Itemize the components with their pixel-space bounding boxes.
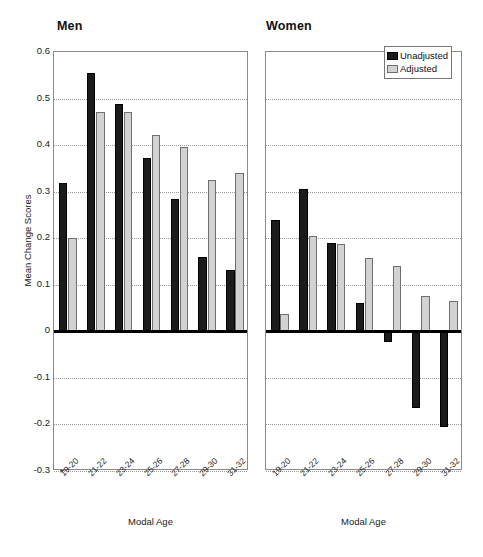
bar-adjusted [96,112,104,332]
bar-group [54,52,82,469]
bar-unadjusted [143,158,151,331]
bar-unadjusted [115,104,123,331]
bar-unadjusted [412,331,420,408]
y-tick-label: -0.2 [16,418,50,428]
bar-unadjusted [87,73,95,331]
bar-unadjusted [226,270,234,331]
bar-adjusted [180,147,188,331]
bar-unadjusted [59,183,67,331]
bar-unadjusted [299,189,307,331]
bar-adjusted [309,236,317,331]
legend-label-adjusted: Adjusted [400,64,437,74]
plot-area-men [54,52,247,469]
bar-unadjusted [198,257,206,331]
plot-area-women [266,52,461,469]
bar-group [322,52,350,469]
legend-label-unadjusted: Unadjusted [400,51,448,61]
bar-adjusted [208,180,216,331]
bar-unadjusted [356,303,364,331]
bar-adjusted [449,301,457,331]
bar-group [82,52,110,469]
y-tick-label: -0.1 [16,372,50,382]
chart-panel-men [53,51,248,470]
bar-adjusted [152,135,160,331]
bar-unadjusted [440,331,448,426]
panel-title-women: Women [266,19,312,33]
y-tick-label: 0.1 [16,279,50,289]
bar-group [435,52,463,469]
bar-group [138,52,166,469]
bar-group [193,52,221,469]
legend-item-adjusted: Adjusted [387,63,448,75]
y-tick-label: -0.3 [16,465,50,475]
y-axis-tick-labels: 0.60.50.40.30.20.10-0.1-0.2-0.3 [12,0,50,557]
bar-adjusted [365,258,373,332]
zero-baseline [54,330,247,333]
bar-group [350,52,378,469]
legend-swatch-adjusted-icon [387,65,398,73]
bar-adjusted [280,314,288,332]
bar-adjusted [124,112,132,331]
bar-group [165,52,193,469]
legend-swatch-unadjusted-icon [387,52,398,60]
bar-group [221,52,249,469]
bar-adjusted [68,238,76,332]
bar-adjusted [337,244,345,332]
zero-baseline [266,330,461,333]
bar-group [110,52,138,469]
bar-unadjusted [271,220,279,332]
legend-item-unadjusted: Unadjusted [387,50,448,62]
y-tick-label: 0 [16,325,50,335]
bar-adjusted [393,266,401,331]
bar-chart-figure: Men Women Mean Change Scores 0.60.50.40.… [0,0,483,557]
panel-title-men: Men [57,19,83,33]
x-axis-title-women: Modal Age [265,516,462,527]
y-tick-label: 0.6 [16,46,50,56]
bar-unadjusted [327,243,335,331]
y-tick-label: 0.4 [16,139,50,149]
bar-adjusted [421,296,429,331]
bar-unadjusted [171,199,179,332]
y-tick-label: 0.3 [16,186,50,196]
chart-panel-women [265,51,462,470]
bar-adjusted [235,173,243,332]
y-tick-label: 0.5 [16,93,50,103]
x-axis-title-men: Modal Age [53,516,248,527]
bar-group [266,52,294,469]
bar-group [379,52,407,469]
bar-group [294,52,322,469]
chart-legend: Unadjusted Adjusted [384,46,452,79]
y-tick-label: 0.2 [16,232,50,242]
bar-group [407,52,435,469]
